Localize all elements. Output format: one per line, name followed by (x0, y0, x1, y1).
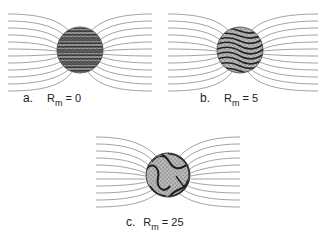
panel-c-caption: c.Rm= 25 (126, 215, 184, 232)
panel-c-sphere (146, 153, 190, 197)
panel-b-letter: b. (200, 91, 210, 105)
panel-c-subscript: m (151, 222, 159, 232)
panel-a-caption: a.Rm= 0 (23, 91, 81, 108)
panel-a-value: = 0 (65, 92, 81, 104)
panel-b-symbol: R (224, 92, 232, 104)
panel-c-value: = 25 (162, 216, 184, 228)
panel-a-subscript: m (55, 98, 63, 108)
panel-a-letter: a. (23, 91, 33, 105)
panel-c-letter: c. (126, 215, 135, 229)
figure-canvas (0, 0, 334, 248)
panel-a-symbol: R (47, 92, 55, 104)
panel-b-subscript: m (232, 98, 240, 108)
panel-b-caption: b.Rm= 5 (200, 91, 258, 108)
panel-b-value: = 5 (242, 92, 258, 104)
